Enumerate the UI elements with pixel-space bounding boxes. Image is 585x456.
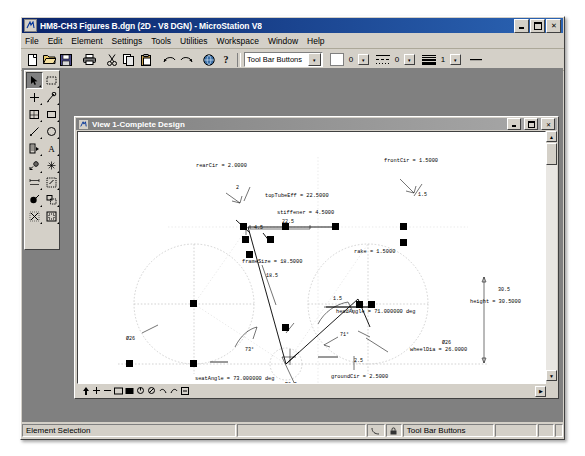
dim-headangle: 71° bbox=[340, 332, 349, 338]
point-tool[interactable] bbox=[26, 89, 43, 106]
arcs-tool[interactable] bbox=[26, 123, 43, 140]
dim-rake: 1.5 bbox=[333, 296, 342, 302]
color-dropdown-icon[interactable]: ▾ bbox=[358, 54, 369, 65]
scroll-down-button[interactable]: ▼ bbox=[546, 370, 557, 381]
lock-icon bbox=[390, 427, 397, 435]
toolbox-select[interactable]: Tool Bar Buttons ▾ bbox=[244, 52, 323, 67]
status-bar: Element Selection Tool Bar Buttons bbox=[22, 423, 563, 438]
lineweight-dropdown-icon[interactable]: ▾ bbox=[450, 54, 461, 65]
ground-contacts bbox=[210, 357, 338, 362]
line-style-value: 0 bbox=[391, 55, 403, 64]
update-icon[interactable] bbox=[80, 385, 91, 396]
window-area-icon[interactable] bbox=[113, 385, 124, 396]
menu-item-workspace[interactable]: Workspace bbox=[217, 36, 259, 46]
delete-element-tool[interactable] bbox=[26, 208, 43, 225]
drop-element-tool[interactable] bbox=[43, 208, 60, 225]
manipulate-tool[interactable] bbox=[43, 191, 60, 208]
menu-bar: File Edit Element Settings Tools Utiliti… bbox=[21, 34, 564, 49]
dim-seatangle: 73° bbox=[245, 347, 254, 353]
line-weight-value: 1 bbox=[437, 55, 449, 64]
status-lock-pane[interactable] bbox=[386, 424, 402, 437]
ellipses-tool[interactable] bbox=[43, 123, 60, 140]
crank-arm bbox=[286, 352, 299, 364]
fence-tool[interactable] bbox=[43, 72, 60, 89]
chevron-down-icon[interactable]: ▾ bbox=[308, 53, 321, 66]
element-selection-tool[interactable] bbox=[26, 72, 43, 89]
cells-tool[interactable] bbox=[26, 157, 43, 174]
rotate-view-icon[interactable] bbox=[135, 385, 146, 396]
active-color-swatch[interactable] bbox=[330, 53, 344, 66]
dim-frontcir: 1.5 bbox=[418, 192, 427, 198]
print-button[interactable] bbox=[81, 52, 97, 67]
toptubeeff-label: topTubeEff = 22.5000 bbox=[265, 193, 329, 199]
question-mark-icon[interactable]: ? bbox=[218, 52, 234, 67]
toolbox-select-value: Tool Bar Buttons bbox=[247, 55, 302, 64]
menu-item-element[interactable]: Element bbox=[71, 36, 102, 46]
copy-button[interactable] bbox=[121, 52, 137, 67]
linear-elements-tool[interactable] bbox=[26, 106, 43, 123]
menu-item-file[interactable]: File bbox=[25, 36, 39, 46]
window-title-bar[interactable]: HM8-CH3 Figures B.dgn (2D - V8 DGN) - Mi… bbox=[22, 18, 563, 33]
globe-icon[interactable] bbox=[201, 52, 217, 67]
view-minimize-button[interactable] bbox=[507, 118, 521, 130]
menu-item-utilities[interactable]: Utilities bbox=[180, 36, 207, 46]
attributes-icon[interactable] bbox=[179, 385, 190, 396]
minimize-button[interactable] bbox=[514, 19, 529, 33]
text-tool[interactable]: A bbox=[43, 140, 60, 157]
view-close-button[interactable]: ✕ bbox=[541, 118, 555, 130]
pan-icon[interactable] bbox=[146, 385, 157, 396]
modify-tool[interactable] bbox=[26, 191, 43, 208]
save-file-button[interactable] bbox=[58, 52, 74, 67]
menu-item-help[interactable]: Help bbox=[307, 36, 324, 46]
linestyle-dropdown-icon[interactable]: ▾ bbox=[404, 54, 415, 65]
paste-button[interactable] bbox=[138, 52, 154, 67]
menu-item-tools[interactable]: Tools bbox=[151, 36, 171, 46]
status-snap-pane[interactable] bbox=[367, 424, 385, 437]
measure-tool[interactable] bbox=[43, 89, 60, 106]
view-window: View 1-Complete Design ✕ bbox=[74, 116, 559, 399]
vscroll-thumb[interactable] bbox=[546, 143, 557, 165]
snap-icon bbox=[371, 427, 380, 435]
status-toolbox-name: Tool Bar Buttons bbox=[407, 426, 466, 435]
undo-arrow-icon[interactable] bbox=[161, 52, 177, 67]
status-extra-pane-2 bbox=[538, 424, 554, 437]
level-symbology-icon[interactable] bbox=[468, 52, 484, 67]
main-toolbox: A bbox=[24, 70, 60, 250]
dim-rearcir: 2 bbox=[236, 185, 239, 191]
menu-item-edit[interactable]: Edit bbox=[48, 36, 63, 46]
forward-arrow-icon[interactable] bbox=[168, 385, 179, 396]
plus-magnifier-icon[interactable] bbox=[91, 385, 102, 396]
change-attributes-tool[interactable] bbox=[43, 174, 60, 191]
menu-item-window[interactable]: Window bbox=[268, 36, 298, 46]
back-arrow-icon[interactable] bbox=[157, 385, 168, 396]
new-file-button[interactable] bbox=[24, 52, 40, 67]
view-vertical-scrollbar[interactable]: ▲ ▼ bbox=[546, 131, 557, 384]
minus-magnifier-icon[interactable] bbox=[102, 385, 113, 396]
polygons-tool[interactable] bbox=[43, 106, 60, 123]
wheeldia-label: wheelDia = 26.0000 bbox=[410, 347, 467, 353]
dim-stiffener: 4.5 bbox=[254, 225, 263, 231]
menu-item-settings[interactable]: Settings bbox=[112, 36, 143, 46]
fit-view-icon[interactable] bbox=[124, 385, 135, 396]
headangle-label: headAngle = 71.000000 deg bbox=[336, 309, 415, 315]
vscroll-track[interactable] bbox=[546, 165, 557, 370]
patterns-tool[interactable] bbox=[43, 157, 60, 174]
scroll-up-button[interactable]: ▲ bbox=[546, 131, 557, 142]
line-style-icon[interactable] bbox=[376, 54, 390, 65]
open-file-button[interactable] bbox=[41, 52, 57, 67]
redo-arrow-icon[interactable] bbox=[178, 52, 194, 67]
view-restore-button[interactable] bbox=[524, 118, 538, 130]
groups-tool[interactable] bbox=[26, 140, 43, 157]
view-title-bar[interactable]: View 1-Complete Design ✕ bbox=[76, 118, 557, 130]
scroll-right-button[interactable]: ▶ bbox=[535, 386, 546, 397]
dim-wheeldia-right: Ø26 bbox=[442, 339, 451, 346]
restore-button[interactable] bbox=[530, 19, 545, 33]
seatangle-label: seatAngle = 73.000000 deg bbox=[195, 376, 274, 382]
framesize-label: frameSize = 18.5000 bbox=[242, 259, 302, 265]
cut-button[interactable] bbox=[104, 52, 120, 67]
line-weight-icon[interactable] bbox=[422, 54, 436, 65]
drawing-canvas[interactable]: rearCir = 2.0000 frontCir = 1.5000 topTu… bbox=[77, 131, 546, 384]
microstation-icon bbox=[24, 19, 37, 32]
close-button[interactable]: ✕ bbox=[546, 19, 561, 33]
dimension-tool[interactable] bbox=[26, 174, 43, 191]
